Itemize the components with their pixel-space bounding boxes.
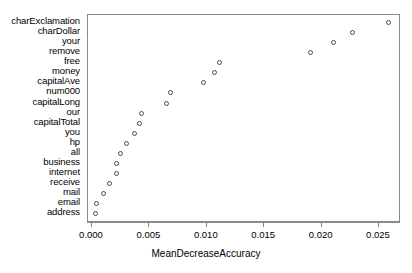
plot-panel	[87, 14, 400, 222]
data-point	[168, 90, 173, 95]
data-point	[118, 151, 123, 156]
data-point	[101, 191, 106, 196]
data-point	[94, 201, 99, 206]
x-axis-tick-label: 0.020	[309, 229, 333, 240]
x-axis-line	[87, 222, 400, 223]
y-axis-label: address	[47, 207, 80, 217]
data-point	[132, 131, 137, 136]
data-point	[114, 161, 119, 166]
y-axis-label: num000	[46, 86, 80, 96]
data-point	[164, 101, 169, 106]
x-axis-tick-label: 0.025	[366, 229, 390, 240]
x-axis-tick	[91, 222, 92, 227]
y-axis-category-labels: charExclamationcharDollaryourremovefreem…	[0, 0, 84, 273]
x-axis-tick	[321, 222, 322, 227]
data-point	[331, 40, 336, 45]
data-point	[107, 181, 112, 186]
x-axis-tick-label: 0.010	[194, 229, 218, 240]
data-point	[139, 111, 144, 116]
data-point	[114, 171, 119, 176]
data-point	[124, 141, 129, 146]
x-axis-title: MeanDecreaseAccuracy	[0, 248, 412, 259]
x-axis-tick-label: 0.005	[137, 229, 161, 240]
data-point	[212, 70, 217, 75]
x-axis-tick	[206, 222, 207, 227]
x-axis-tick	[378, 222, 379, 227]
data-point	[350, 30, 355, 35]
x-axis-tick-label: 0.000	[79, 229, 103, 240]
x-axis-tick	[263, 222, 264, 227]
x-axis-tick-label: 0.015	[251, 229, 275, 240]
data-point	[217, 60, 222, 65]
x-axis-tick	[148, 222, 149, 227]
data-point	[386, 20, 391, 25]
data-point	[137, 121, 142, 126]
data-point	[93, 211, 98, 216]
variable-importance-plot: charExclamationcharDollaryourremovefreem…	[0, 0, 412, 273]
data-point	[201, 80, 206, 85]
data-point	[308, 50, 313, 55]
